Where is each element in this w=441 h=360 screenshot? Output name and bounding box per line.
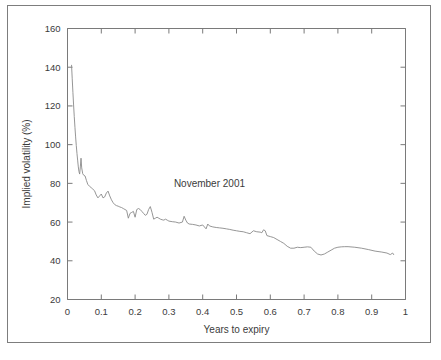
plot-box <box>68 29 406 300</box>
implied-volatility-line-chart: 00.10.20.30.40.50.60.70.80.9120406080100… <box>0 0 441 360</box>
axis-tick-labels-group: 00.10.20.30.40.50.60.70.80.9120406080100… <box>45 23 409 317</box>
x-tick-label: 0.2 <box>128 306 141 317</box>
x-tick-label: 0.8 <box>331 306 344 317</box>
x-tick-label: 0.5 <box>230 306 243 317</box>
y-tick-label: 60 <box>50 217 61 228</box>
x-tick-label: 0.9 <box>365 306 378 317</box>
x-tick-label: 0.7 <box>297 306 310 317</box>
y-tick-label: 160 <box>45 23 61 34</box>
x-axis-title: Years to expiry <box>204 324 270 335</box>
x-tick-label: 0.1 <box>95 306 108 317</box>
volatility-curve <box>72 65 394 255</box>
y-tick-label: 20 <box>50 294 61 305</box>
y-tick-label: 120 <box>45 100 61 111</box>
annotation-november-2001: November 2001 <box>174 178 246 189</box>
y-tick-label: 140 <box>45 62 61 73</box>
chart-figure: 00.10.20.30.40.50.60.70.80.9120406080100… <box>0 0 441 360</box>
axes-group <box>68 29 406 300</box>
x-tick-label: 0.6 <box>264 306 277 317</box>
y-tick-label: 80 <box>50 178 61 189</box>
x-tick-label: 0.3 <box>162 306 175 317</box>
y-tick-label: 40 <box>50 255 61 266</box>
x-tick-label: 1 <box>403 306 408 317</box>
y-tick-label: 100 <box>45 139 61 150</box>
x-tick-label: 0.4 <box>196 306 209 317</box>
x-tick-label: 0 <box>65 306 70 317</box>
y-axis-title: Implied volatility (%) <box>21 120 32 209</box>
axis-ticks-group <box>68 29 406 300</box>
